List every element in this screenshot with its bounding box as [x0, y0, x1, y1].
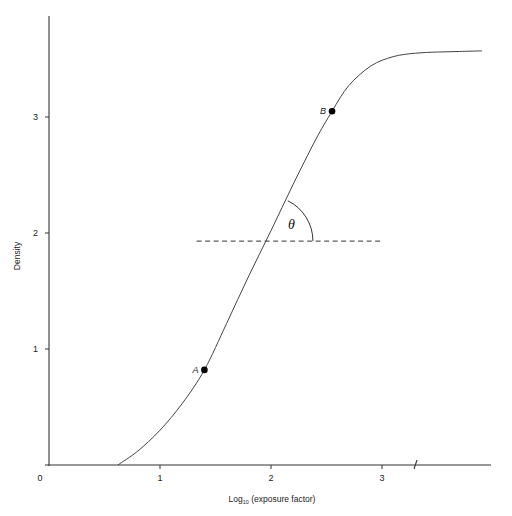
characteristic-curve-chart: 123 0123 θ AB Density Log10 (exposure fa…: [0, 0, 512, 516]
y-axis-title: Density: [12, 241, 22, 270]
y-tick-label: 1: [33, 344, 38, 354]
marked-points: AB: [191, 106, 335, 375]
point-a: [201, 367, 208, 374]
x-tick-label: 0: [37, 473, 42, 483]
point-label-b: B: [320, 106, 326, 116]
theta-label: θ: [288, 217, 295, 232]
x-axis-title-rest: (exposure factor): [249, 494, 316, 504]
y-tick-label: 3: [33, 112, 38, 122]
y-ticks: 123: [33, 112, 49, 354]
x-tick-label: 2: [268, 473, 273, 483]
x-axis-title-log: Log: [229, 494, 243, 504]
y-tick-label: 2: [33, 228, 38, 238]
point-label-a: A: [191, 365, 198, 375]
point-b: [329, 108, 336, 115]
x-tick-label: 1: [157, 473, 162, 483]
density-curve: [118, 51, 482, 465]
x-tick-label: 3: [379, 473, 384, 483]
x-ticks: 0123: [37, 465, 384, 483]
x-axis-title: Log10 (exposure factor): [229, 494, 316, 505]
